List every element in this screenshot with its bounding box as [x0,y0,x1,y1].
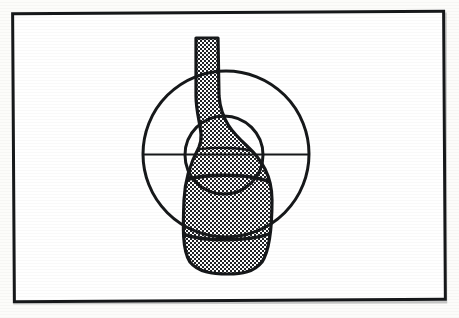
diagram-svg [0,0,459,318]
diagram-artwork [0,0,459,318]
figure-page [0,0,459,318]
